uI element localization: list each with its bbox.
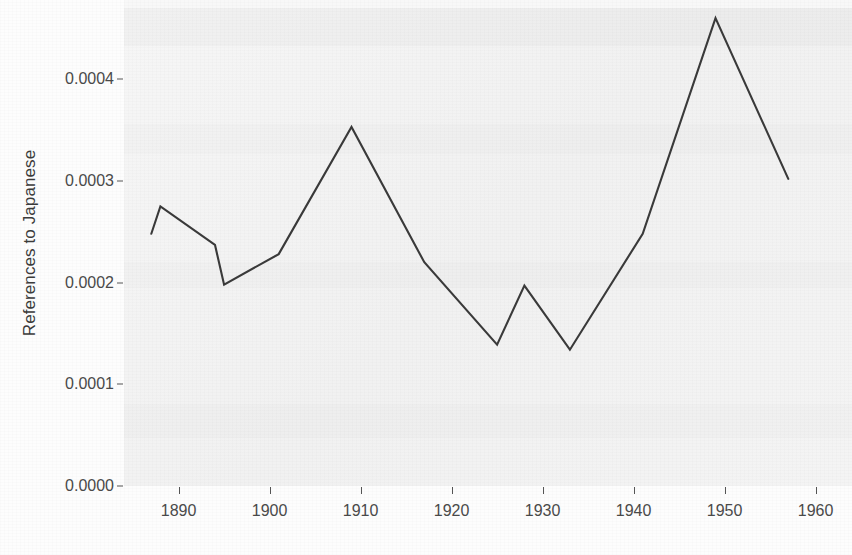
data-line-layer	[0, 0, 852, 555]
chart-figure: References to Japanese 0.00000.00010.000…	[0, 0, 852, 555]
series-line-references-to-japanese	[151, 18, 788, 350]
